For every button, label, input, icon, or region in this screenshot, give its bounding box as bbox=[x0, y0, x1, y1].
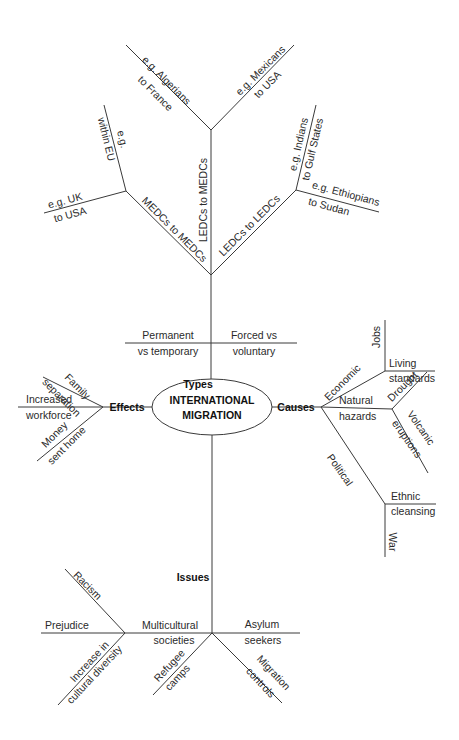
mind-map: INTERNATIONAL MIGRATION Types Effects Ca… bbox=[0, 0, 459, 740]
issues-racism: Racism bbox=[71, 569, 104, 602]
issues-multicultural-line2: societies bbox=[154, 634, 195, 646]
causes-ethnic-line1: Ethnic bbox=[391, 490, 420, 502]
center-line2: MIGRATION bbox=[182, 409, 241, 421]
causes-natural-line2: hazards bbox=[339, 410, 376, 422]
within-eu-line1: e.g. bbox=[115, 129, 131, 149]
causes-political: Political bbox=[325, 451, 356, 488]
flow-ledc-medc: LEDCs to MEDCs bbox=[197, 158, 209, 242]
issues-multicultural-line1: Multicultural bbox=[142, 619, 198, 631]
issues-prejudice: Prejudice bbox=[45, 619, 89, 631]
connector-lines bbox=[18, 45, 436, 705]
effects-workforce-line1: Increased bbox=[26, 393, 72, 405]
issues-label: Issues bbox=[177, 571, 210, 583]
types-forced-line1: Forced vs bbox=[231, 329, 277, 341]
causes-jobs: Jobs bbox=[370, 326, 382, 348]
causes-natural-line1: Natural bbox=[339, 394, 373, 406]
causes-living-line1: Living bbox=[389, 357, 417, 369]
types-label: Types bbox=[183, 378, 213, 390]
causes-label: Causes bbox=[277, 401, 315, 413]
issues-asylum-line1: Asylum bbox=[245, 618, 280, 630]
issues-asylum-line2: seekers bbox=[245, 634, 282, 646]
types-permanent-line2: vs temporary bbox=[138, 345, 199, 357]
within-eu-line2: within EU bbox=[95, 115, 118, 162]
effects-workforce-line2: workforce bbox=[25, 409, 72, 421]
types-permanent-line1: Permanent bbox=[142, 329, 193, 341]
causes-war: War bbox=[387, 533, 399, 552]
center-line1: INTERNATIONAL bbox=[170, 394, 256, 406]
causes-ethnic-line2: cleansing bbox=[391, 505, 436, 517]
effects-label: Effects bbox=[109, 401, 144, 413]
flow-ledc-ledc: LEDCs to LEDCs bbox=[216, 192, 282, 258]
types-forced-line2: voluntary bbox=[233, 345, 276, 357]
